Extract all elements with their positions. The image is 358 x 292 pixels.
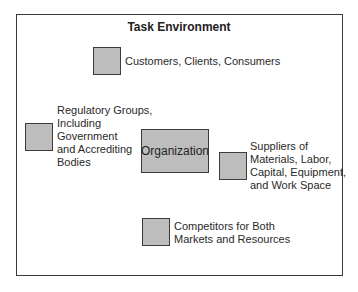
suppliers-line-3: Capital, Equipment, bbox=[250, 166, 346, 179]
suppliers-line-1: Suppliers of bbox=[250, 140, 346, 153]
competitors-box bbox=[142, 218, 170, 246]
diagram-title: Task Environment bbox=[0, 20, 358, 34]
competitors-line-1: Competitors for Both bbox=[174, 220, 290, 233]
organization-label: Organization bbox=[141, 144, 209, 158]
regulatory-line-2: Including bbox=[57, 117, 152, 130]
suppliers-line-4: and Work Space bbox=[250, 179, 346, 192]
regulatory-label: Regulatory Groups, Including Government … bbox=[57, 104, 152, 169]
suppliers-label: Suppliers of Materials, Labor, Capital, … bbox=[250, 140, 346, 192]
regulatory-line-5: Bodies bbox=[57, 156, 152, 169]
organization-box: Organization bbox=[141, 129, 209, 173]
regulatory-line-3: Government bbox=[57, 130, 152, 143]
customers-box bbox=[93, 47, 121, 75]
competitors-line-2: Markets and Resources bbox=[174, 233, 290, 246]
customers-label: Customers, Clients, Consumers bbox=[125, 55, 280, 68]
competitors-label: Competitors for Both Markets and Resourc… bbox=[174, 220, 290, 246]
suppliers-line-2: Materials, Labor, bbox=[250, 153, 346, 166]
suppliers-box bbox=[219, 152, 247, 180]
regulatory-line-4: and Accrediting bbox=[57, 143, 152, 156]
regulatory-box bbox=[25, 123, 53, 151]
regulatory-line-1: Regulatory Groups, bbox=[57, 104, 152, 117]
